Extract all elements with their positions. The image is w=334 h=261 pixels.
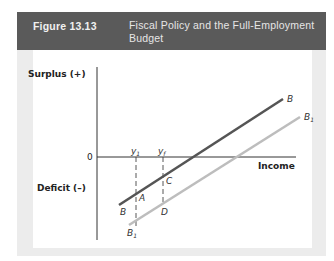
y1-label: y1 (130, 146, 140, 157)
line-b1-start-label: B1 (127, 228, 137, 239)
yf-label: yf (157, 146, 166, 157)
income-label: Income (258, 161, 295, 171)
point-d-label: D (161, 207, 168, 217)
line-b-start-label: B (120, 207, 126, 217)
origin-label: 0 (87, 152, 93, 162)
budget-diagram: Surplus (+) Deficit (–) Income 0 y1 yf B… (0, 0, 334, 261)
point-a-label: A (138, 193, 145, 203)
surplus-label: Surplus (+) (28, 69, 86, 79)
budget-line-b1 (129, 117, 300, 225)
budget-line-b (119, 99, 283, 205)
point-c-label: C (166, 176, 173, 186)
line-b1-end-label: B1 (304, 112, 314, 123)
deficit-label: Deficit (–) (37, 183, 86, 193)
line-b-end-label: B (287, 94, 293, 104)
